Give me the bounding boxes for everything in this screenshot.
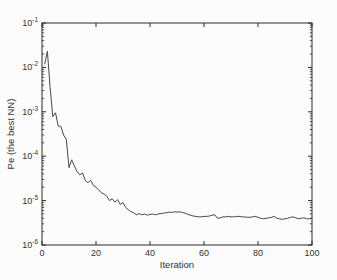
figure: 020406080100 10-110-210-310-410-510-6 It… [0, 0, 337, 280]
svg-text:0: 0 [39, 248, 44, 258]
y-axis-label: Pe (the best NN) [5, 99, 16, 170]
svg-text:10-3: 10-3 [22, 105, 38, 117]
svg-text:40: 40 [145, 248, 155, 258]
svg-text:10-2: 10-2 [22, 60, 38, 72]
data-line [45, 51, 312, 219]
svg-text:10-1: 10-1 [22, 16, 38, 28]
svg-text:10-6: 10-6 [22, 238, 38, 250]
svg-text:10-5: 10-5 [22, 194, 38, 206]
svg-text:80: 80 [253, 248, 263, 258]
x-axis-label: Iteration [160, 259, 194, 270]
x-axis-tick-labels: 020406080100 [39, 248, 319, 258]
chart-canvas: 020406080100 10-110-210-310-410-510-6 It… [0, 0, 337, 280]
svg-text:100: 100 [304, 248, 319, 258]
svg-text:60: 60 [199, 248, 209, 258]
svg-text:20: 20 [91, 248, 101, 258]
y-axis-tick-labels: 10-110-210-310-410-510-6 [22, 16, 38, 250]
svg-text:10-4: 10-4 [22, 149, 38, 161]
